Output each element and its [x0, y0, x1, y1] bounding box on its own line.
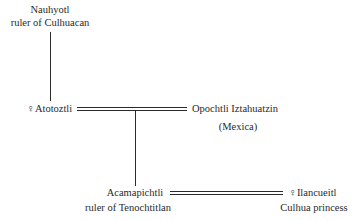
node-nauhyotl-name: Nauhyotl	[30, 4, 69, 16]
node-atotoztli: ♀Atotoztli	[27, 103, 72, 115]
node-opochtli-title: (Mexica)	[219, 121, 257, 133]
node-opochtli-name: Opochtli Iztahuatzin	[192, 103, 278, 115]
node-acamapichtli-title: ruler of Tenochtitlan	[85, 202, 171, 214]
node-atotoztli-name: Atotoztli	[35, 103, 72, 114]
descent-line-nauhyotl-atotoztli	[50, 32, 51, 101]
marriage-line-atotoztli-opochtli	[77, 107, 187, 111]
node-ilancueitl-name: Ilancueitl	[297, 187, 337, 198]
female-symbol-icon: ♀	[27, 103, 35, 114]
node-acamapichtli-name: Acamapichtli	[107, 187, 164, 199]
marriage-line-acamapichtli-ilancueitl	[170, 191, 283, 195]
descent-line-to-acamapichtli	[135, 111, 136, 186]
female-symbol-icon: ♀	[289, 187, 297, 198]
node-ilancueitl: ♀Ilancueitl	[289, 187, 337, 199]
node-ilancueitl-title: Culhua princess	[280, 202, 347, 214]
node-nauhyotl-title: ruler of Culhuacan	[11, 17, 90, 29]
